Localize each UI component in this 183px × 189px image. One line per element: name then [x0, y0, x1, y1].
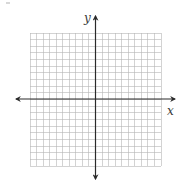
x-axis-label: x — [167, 104, 174, 118]
corner-mark — [6, 2, 10, 4]
y-axis-label: y — [83, 11, 91, 25]
coordinate-plane: y x — [0, 0, 183, 189]
coordinate-plane-svg: y x — [0, 0, 183, 189]
